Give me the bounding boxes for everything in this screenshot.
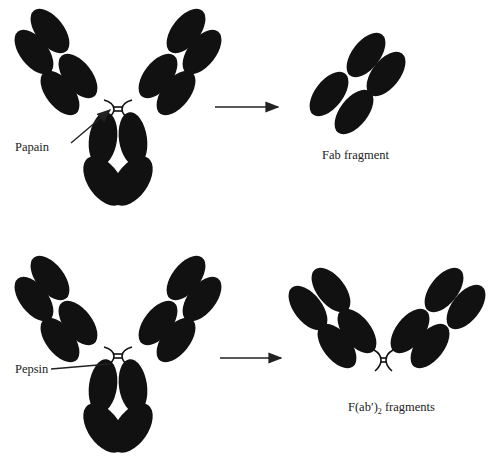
intact-antibody-papain [7,2,229,213]
fab2-fragment-label: F(ab′)2 fragments [348,400,435,416]
pepsin-row: Pepsin F(ab′)2 fragments [7,249,493,460]
pepsin-label: Pepsin [15,362,49,376]
antibody-cleavage-diagram: Papain Fab fragment Pepsin [0,0,495,461]
fab-fragment-label: Fab fragment [322,148,390,162]
papain-label: Papain [15,140,50,154]
fab2-fragment [281,261,493,375]
papain-row: Papain Fab fragment [7,2,413,213]
fab-fragment [302,26,413,141]
intact-antibody-pepsin [7,249,229,460]
